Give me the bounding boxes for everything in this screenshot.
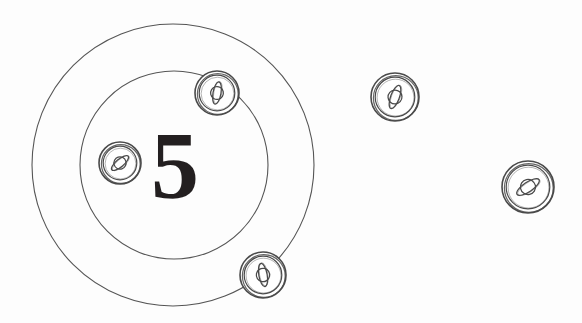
token-left-inside[interactable] xyxy=(99,142,141,184)
token-right-upper[interactable] xyxy=(371,73,419,121)
scene-svg: 5 xyxy=(0,0,582,323)
token-top-inside[interactable] xyxy=(195,71,239,115)
scene-canvas: 5 xyxy=(0,0,582,323)
token-right-lower[interactable] xyxy=(502,161,554,213)
token-bottom-edge[interactable] xyxy=(240,252,286,298)
count-numeral: 5 xyxy=(151,112,199,219)
